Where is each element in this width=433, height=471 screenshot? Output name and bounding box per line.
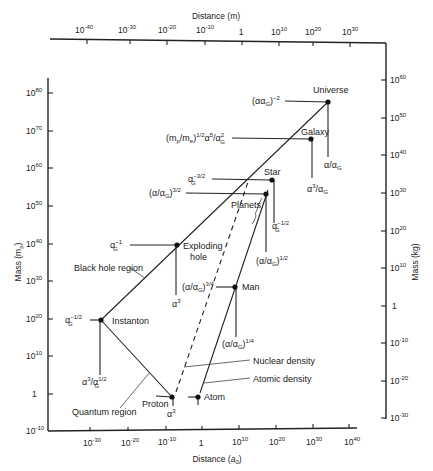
top-tick: 1020 xyxy=(305,26,322,46)
svg-text:1030: 1030 xyxy=(306,436,323,447)
top-tick: 10-30 xyxy=(118,24,137,44)
formula-star-mass: α−3/2G xyxy=(188,173,206,186)
right-tick: 10-10 xyxy=(381,337,409,348)
right-tick: 10-30 xyxy=(381,412,409,423)
svg-text:1010: 1010 xyxy=(26,350,43,361)
label-exploding-hole: Explodinghole xyxy=(183,241,223,262)
formula-galaxy-mass: (mp/me)1/2α5/α2G xyxy=(166,132,225,145)
bottom-tick: 1030 xyxy=(306,424,323,447)
label-proton: Proton xyxy=(142,399,169,409)
svg-text:1030: 1030 xyxy=(26,275,43,286)
quantum-boundary-line xyxy=(101,320,172,397)
axes-frame xyxy=(48,39,386,431)
svg-text:1060: 1060 xyxy=(390,74,407,85)
right-tick: 10-20 xyxy=(381,375,409,386)
svg-text:1020: 1020 xyxy=(269,436,286,447)
svg-text:1: 1 xyxy=(32,389,37,399)
svg-text:10-30: 10-30 xyxy=(83,437,102,448)
svg-text:1070: 1070 xyxy=(26,125,43,136)
label-man: Man xyxy=(242,282,260,292)
formula-planets-mass: (α/αG)3/2 xyxy=(149,187,182,199)
svg-text:1030: 1030 xyxy=(342,26,359,37)
right-tick: 1050 xyxy=(381,112,407,123)
nuclear-density-leader xyxy=(184,360,250,367)
label-atom: Atom xyxy=(204,392,225,402)
formula-star-size: α−1/2G xyxy=(272,220,290,233)
label-atomic-density: Atomic density xyxy=(253,374,312,384)
top-tick: 10-40 xyxy=(75,24,94,44)
point-galaxy xyxy=(308,136,313,141)
point-exploding-hole xyxy=(174,242,179,247)
svg-text:10-30: 10-30 xyxy=(118,24,137,35)
atomic-density-leader xyxy=(204,378,250,383)
point-planets xyxy=(263,191,268,196)
top-axis-title: Distance (m) xyxy=(192,11,240,21)
label-galaxy: Galaxy xyxy=(301,127,330,137)
svg-text:10-10: 10-10 xyxy=(196,24,215,35)
top-tick: 1 xyxy=(239,27,244,45)
left-tick: 10-10 xyxy=(26,425,45,436)
formula-man-mass: (α/αG)3/4 xyxy=(182,281,215,293)
left-tick: 1030 xyxy=(26,275,53,286)
point-atom xyxy=(195,394,200,399)
left-tick: 1040 xyxy=(26,238,53,249)
formula-universe-mass: (ααG)−2 xyxy=(252,95,281,107)
point-man xyxy=(232,284,237,289)
svg-text:1: 1 xyxy=(199,438,204,448)
right-tick: 1010 xyxy=(381,262,407,273)
left-tick: 1020 xyxy=(26,313,53,324)
left-tick: 1080 xyxy=(26,87,53,98)
formula-man-size: (α/αG)1/4 xyxy=(222,338,255,350)
svg-text:1020: 1020 xyxy=(390,225,407,236)
formula-galaxy-size: α3/αG xyxy=(307,183,328,195)
left-tick: 1060 xyxy=(26,162,53,173)
formula-universe-size: α/αG xyxy=(324,160,342,171)
top-tick: 1010 xyxy=(271,26,288,46)
svg-text:1: 1 xyxy=(392,301,397,311)
point-star xyxy=(269,177,274,182)
svg-text:1020: 1020 xyxy=(305,26,322,37)
right-tick: 1020 xyxy=(381,225,407,236)
right-axis-title: Mass (kg) xyxy=(410,243,420,280)
svg-text:10-10: 10-10 xyxy=(158,436,177,447)
left-axis: 1080 1070 1060 1050 1040 1030 1020 1010 … xyxy=(13,87,53,436)
svg-text:10-20: 10-20 xyxy=(121,437,140,448)
label-universe: Universe xyxy=(313,85,349,95)
svg-text:1040: 1040 xyxy=(26,238,43,249)
left-tick: 1070 xyxy=(26,125,53,136)
left-tick: 1010 xyxy=(26,350,53,361)
log-log-mass-distance-chart: Distance (m) 10-40 10-30 10-20 10-10 1 1… xyxy=(0,0,433,471)
formula-exploding-hole-size: α3 xyxy=(172,298,181,309)
svg-text:1010: 1010 xyxy=(390,262,407,273)
svg-text:1060: 1060 xyxy=(26,162,43,173)
svg-text:1010: 1010 xyxy=(271,26,288,37)
left-tick: 1 xyxy=(32,389,53,399)
bottom-tick: 1010 xyxy=(232,425,249,447)
point-proton xyxy=(169,394,174,399)
top-tick: 10-20 xyxy=(158,24,177,45)
svg-text:10-10: 10-10 xyxy=(26,425,45,436)
svg-text:1050: 1050 xyxy=(390,112,407,123)
formula-instanton-size: α3/α1/2G xyxy=(82,376,107,389)
left-tick: 1050 xyxy=(26,200,53,211)
chart-canvas: Distance (m) 10-40 10-30 10-20 10-10 1 1… xyxy=(0,0,433,471)
svg-text:10-40: 10-40 xyxy=(75,24,94,35)
label-black-hole-region: Black hole region xyxy=(74,263,143,273)
label-star: Star xyxy=(264,167,281,177)
top-tick: 1030 xyxy=(342,26,359,47)
right-tick: 1060 xyxy=(381,74,407,85)
right-tick: 1040 xyxy=(381,149,407,160)
formula-exploding-hole-mass: α−1G xyxy=(110,239,123,252)
label-quantum-region: Quantum region xyxy=(72,407,137,417)
svg-text:10-10: 10-10 xyxy=(390,337,409,348)
svg-text:1030: 1030 xyxy=(390,187,407,198)
svg-text:1020: 1020 xyxy=(26,313,43,324)
right-tick: 1030 xyxy=(381,187,407,198)
left-axis-title: Mass (mp) xyxy=(13,242,24,281)
formula-proton-size: α3 xyxy=(167,408,176,419)
top-axis-line xyxy=(50,39,386,43)
svg-text:1010: 1010 xyxy=(232,436,249,447)
svg-text:10-20: 10-20 xyxy=(158,24,177,35)
svg-text:1040: 1040 xyxy=(390,149,407,160)
svg-text:10-20: 10-20 xyxy=(390,375,409,386)
